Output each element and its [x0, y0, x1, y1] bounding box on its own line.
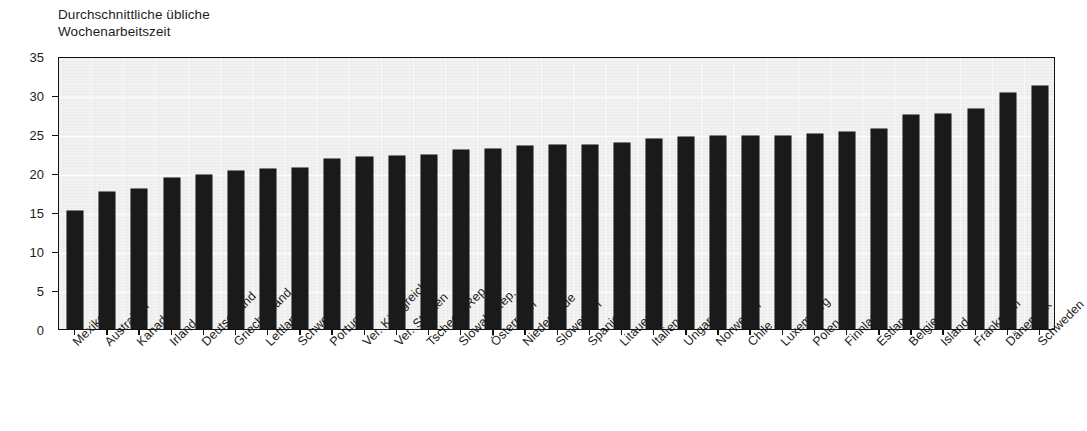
x-tick-label: Ungarn: [681, 310, 720, 349]
y-tick-mark: [52, 96, 58, 97]
x-tick-label: Chile: [745, 318, 775, 348]
x-tick-label: Belgien: [906, 309, 946, 349]
y-tick-mark: [52, 174, 58, 175]
y-tick-mark: [52, 135, 58, 136]
x-tick-label: Mexiko: [70, 311, 108, 349]
y-tick-mark: [52, 252, 58, 253]
y-tick-mark: [52, 291, 58, 292]
y-tick-mark: [52, 213, 58, 214]
